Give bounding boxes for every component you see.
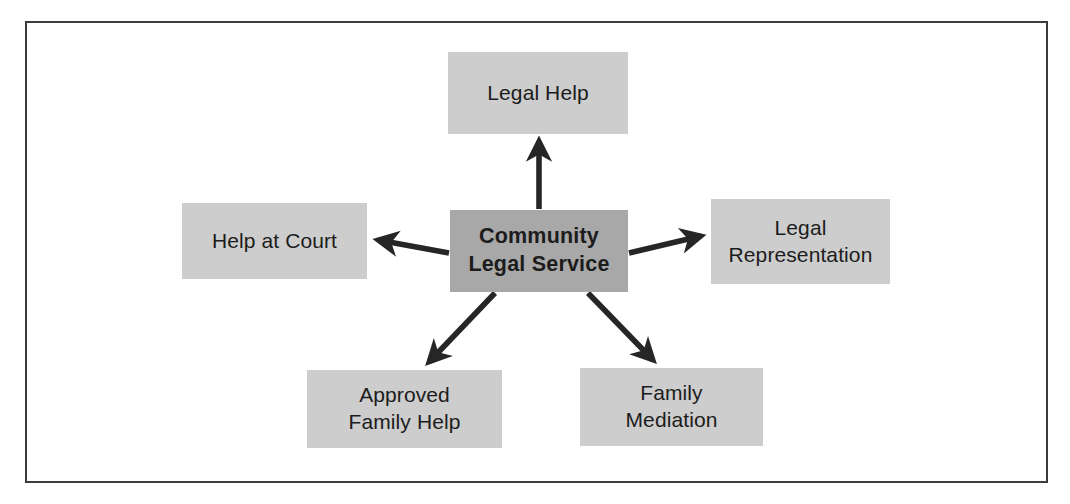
- arrow-to-approved-family-help: [429, 293, 495, 362]
- node-family-mediation: Family Mediation: [580, 368, 763, 446]
- arrow-to-family-mediation: [588, 293, 653, 360]
- arrow-to-help-at-court: [378, 240, 449, 253]
- node-legal-help: Legal Help: [448, 52, 628, 134]
- node-help-at-court: Help at Court: [182, 203, 367, 279]
- node-legal-representation: Legal Representation: [711, 199, 890, 284]
- node-community-legal-service: Community Legal Service: [450, 210, 628, 292]
- arrow-to-legal-representation: [629, 236, 701, 253]
- diagram-canvas: Legal Help Help at Court Legal Represent…: [0, 0, 1070, 504]
- node-approved-family-help: Approved Family Help: [307, 370, 502, 448]
